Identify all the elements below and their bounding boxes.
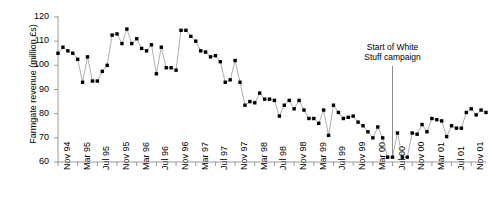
- data-point-marker: [312, 117, 315, 120]
- data-point-marker: [115, 32, 118, 35]
- data-point-marker: [307, 117, 310, 120]
- data-point-marker: [376, 125, 379, 128]
- data-point-marker: [248, 100, 251, 103]
- data-point-marker: [347, 116, 350, 119]
- data-point-marker: [332, 104, 335, 107]
- data-point-marker: [351, 114, 354, 117]
- annotation-start-of-white-stuff-campaign: Start of White Stuff campaign: [333, 42, 453, 62]
- data-point-marker: [194, 39, 197, 42]
- data-point-marker: [214, 54, 217, 57]
- data-point-marker: [228, 78, 231, 81]
- data-point-marker: [169, 66, 172, 69]
- data-point-marker: [56, 52, 59, 55]
- data-point-marker: [460, 126, 463, 129]
- data-point-marker: [135, 37, 138, 40]
- data-point-marker: [258, 91, 261, 94]
- data-point-marker: [401, 155, 404, 158]
- data-point-marker: [381, 136, 384, 139]
- data-point-marker: [406, 155, 409, 158]
- data-point-marker: [150, 43, 153, 46]
- data-point-marker: [204, 50, 207, 53]
- data-point-marker: [415, 133, 418, 136]
- data-point-marker: [199, 49, 202, 52]
- data-point-marker: [243, 104, 246, 107]
- data-point-marker: [292, 107, 295, 110]
- data-point-marker: [219, 60, 222, 63]
- data-point-marker: [342, 117, 345, 120]
- data-point-marker: [125, 27, 128, 30]
- data-point-marker: [253, 101, 256, 104]
- data-point-marker: [91, 79, 94, 82]
- data-point-marker: [435, 118, 438, 121]
- data-point-marker: [474, 113, 477, 116]
- data-point-marker: [86, 55, 89, 58]
- data-point-marker: [209, 55, 212, 58]
- data-point-marker: [445, 135, 448, 138]
- data-point-marker: [479, 108, 482, 111]
- data-point-marker: [322, 108, 325, 111]
- data-point-marker: [337, 111, 340, 114]
- data-point-marker: [361, 124, 364, 127]
- data-point-marker: [140, 47, 143, 50]
- data-point-marker: [179, 29, 182, 32]
- data-point-marker: [430, 117, 433, 120]
- data-point-marker: [110, 33, 113, 36]
- data-point-marker: [155, 72, 158, 75]
- data-point-marker: [81, 81, 84, 84]
- data-point-marker: [302, 108, 305, 111]
- data-point-marker: [470, 107, 473, 110]
- data-point-marker: [145, 49, 148, 52]
- data-point-marker: [130, 42, 133, 45]
- data-point-marker: [160, 46, 163, 49]
- data-point-marker: [366, 130, 369, 133]
- plot-area: [0, 0, 491, 218]
- data-point-marker: [263, 97, 266, 100]
- data-point-marker: [386, 155, 389, 158]
- data-point-marker: [396, 131, 399, 134]
- data-point-marker: [317, 122, 320, 125]
- data-point-marker: [391, 155, 394, 158]
- data-point-marker: [440, 119, 443, 122]
- data-point-marker: [238, 81, 241, 84]
- annotation-line-2: Stuff campaign: [333, 52, 453, 62]
- data-point-marker: [484, 111, 487, 114]
- data-point-marker: [66, 49, 69, 52]
- data-point-marker: [233, 59, 236, 62]
- data-point-marker: [283, 104, 286, 107]
- data-point-marker: [288, 99, 291, 102]
- data-point-marker: [120, 42, 123, 45]
- chart-container: Farmgate revenue (million £s) 6070809010…: [0, 0, 491, 218]
- data-point-marker: [189, 35, 192, 38]
- data-point-marker: [71, 52, 74, 55]
- data-point-marker: [465, 111, 468, 114]
- data-point-marker: [273, 99, 276, 102]
- data-point-marker: [106, 64, 109, 67]
- data-point-marker: [61, 46, 64, 49]
- data-point-marker: [450, 124, 453, 127]
- data-point-marker: [278, 114, 281, 117]
- data-point-marker: [96, 79, 99, 82]
- data-point-marker: [425, 130, 428, 133]
- data-point-marker: [420, 123, 423, 126]
- data-point-marker: [327, 134, 330, 137]
- data-point-marker: [411, 131, 414, 134]
- data-point-marker: [455, 126, 458, 129]
- data-point-marker: [184, 29, 187, 32]
- data-point-marker: [165, 66, 168, 69]
- data-point-marker: [268, 97, 271, 100]
- data-point-marker: [76, 58, 79, 61]
- data-point-marker: [356, 120, 359, 123]
- data-point-marker: [371, 136, 374, 139]
- data-point-marker: [297, 99, 300, 102]
- data-point-marker: [224, 81, 227, 84]
- annotation-line-1: Start of White: [333, 42, 453, 52]
- data-point-marker: [101, 70, 104, 73]
- data-point-marker: [174, 68, 177, 71]
